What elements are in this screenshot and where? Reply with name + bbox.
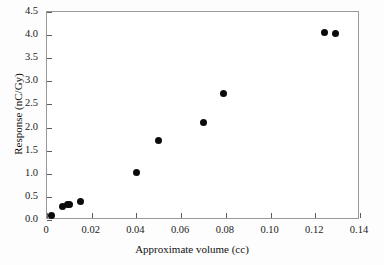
x-tick-label: 0.08: [200, 225, 250, 236]
x-tick-label: 0.12: [289, 225, 339, 236]
scatter-plot-figure: 0.00.51.01.52.02.53.03.54.04.5 00.020.04…: [0, 0, 384, 265]
x-tick-label: 0.10: [245, 225, 295, 236]
x-tick-label: 0.06: [155, 225, 205, 236]
x-tick-label: 0: [21, 225, 71, 236]
x-tick-label: 0.14: [334, 225, 384, 236]
x-axis-title: Approximate volume (cc): [0, 243, 384, 255]
x-tick-label: 0.02: [66, 225, 116, 236]
y-axis-title: Response (nC/Gy): [12, 44, 24, 184]
x-tick-label: 0.04: [110, 225, 160, 236]
x-axis-tick-labels: 00.020.040.060.080.100.120.14: [0, 0, 384, 265]
